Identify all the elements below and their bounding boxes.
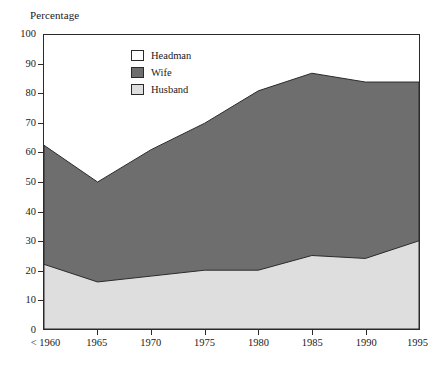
y-tick-label: 40 bbox=[2, 207, 36, 217]
y-tick-mark bbox=[38, 182, 43, 183]
legend-item-wife: Wife bbox=[131, 66, 191, 79]
x-tick-label: 1995 bbox=[407, 337, 428, 348]
y-tick-label: 90 bbox=[2, 59, 36, 69]
legend-item-husband: Husband bbox=[131, 83, 191, 96]
plot-svg bbox=[44, 35, 419, 329]
y-tick-mark bbox=[38, 241, 43, 242]
x-tick-label: 1980 bbox=[248, 337, 269, 348]
legend-label-wife: Wife bbox=[151, 67, 172, 78]
x-tick-mark bbox=[97, 330, 98, 335]
y-tick-mark bbox=[38, 152, 43, 153]
legend-swatch-wife bbox=[131, 67, 144, 78]
y-axis-title: Percentage bbox=[30, 9, 79, 22]
y-tick-label: 80 bbox=[2, 88, 36, 98]
y-tick-label: 60 bbox=[2, 147, 36, 157]
x-tick-label: 1985 bbox=[302, 337, 323, 348]
y-tick-mark bbox=[38, 300, 43, 301]
y-tick-label: 20 bbox=[2, 266, 36, 276]
x-tick-mark bbox=[151, 330, 152, 335]
x-tick-mark bbox=[258, 330, 259, 335]
y-tick-mark bbox=[38, 123, 43, 124]
x-tick-mark bbox=[366, 330, 367, 335]
x-tick-label: 1970 bbox=[140, 337, 161, 348]
x-tick-label: 1965 bbox=[86, 337, 107, 348]
y-tick-mark bbox=[38, 271, 43, 272]
legend-swatch-husband bbox=[131, 84, 144, 95]
legend-label-husband: Husband bbox=[151, 84, 188, 95]
y-tick-mark bbox=[38, 64, 43, 65]
legend-swatch-headman bbox=[131, 50, 144, 61]
y-tick-mark bbox=[38, 93, 43, 94]
y-tick-label: 50 bbox=[2, 177, 36, 187]
y-tick-label: 100 bbox=[2, 29, 36, 39]
stacked-area-chart: Percentage 1009080706050403020100 < 1960… bbox=[0, 0, 447, 368]
x-tick-label: 1975 bbox=[194, 337, 215, 348]
legend: Headman Wife Husband bbox=[131, 49, 191, 96]
plot-area bbox=[43, 34, 420, 330]
y-tick-label: 70 bbox=[2, 118, 36, 128]
x-tick-label: < 1960 bbox=[31, 337, 61, 348]
legend-label-headman: Headman bbox=[151, 50, 191, 61]
y-tick-label: 30 bbox=[2, 236, 36, 246]
legend-item-headman: Headman bbox=[131, 49, 191, 62]
x-tick-label: 1990 bbox=[356, 337, 377, 348]
y-tick-label: 0 bbox=[2, 325, 36, 335]
x-tick-mark bbox=[205, 330, 206, 335]
y-axis-labels: 1009080706050403020100 bbox=[0, 0, 36, 368]
y-tick-label: 10 bbox=[2, 295, 36, 305]
y-tick-mark bbox=[38, 212, 43, 213]
x-tick-mark bbox=[312, 330, 313, 335]
